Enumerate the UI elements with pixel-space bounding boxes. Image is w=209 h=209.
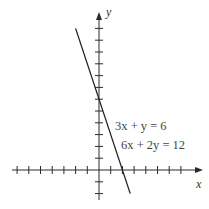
y-axis-label: y xyxy=(106,6,111,18)
series-lines xyxy=(76,28,131,193)
x-axis-label: x xyxy=(196,178,201,190)
coordinate-plane xyxy=(0,0,209,209)
equation-label-primary: 3x + y = 6 xyxy=(115,120,167,133)
y-axis-arrow-icon xyxy=(96,12,102,20)
line-3x-plus-y-equals-6 xyxy=(76,28,131,193)
equation-label-equivalent: 6x + 2y = 12 xyxy=(121,139,185,152)
x-axis-arrow-icon xyxy=(195,167,203,173)
